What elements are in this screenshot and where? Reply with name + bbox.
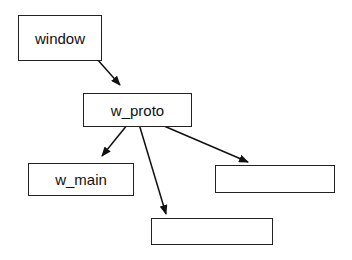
node-window[interactable]: window (18, 15, 102, 61)
node-label: w_main (55, 171, 107, 188)
node-label: w_proto (111, 102, 164, 119)
node-label: window (35, 30, 85, 47)
node-w-main[interactable]: w_main (28, 163, 134, 196)
edge-w_proto-to-bottom (136, 114, 166, 214)
node-w-proto[interactable]: w_proto (83, 93, 192, 127)
node-empty-bottom[interactable] (151, 218, 273, 245)
node-empty-right[interactable] (215, 165, 335, 193)
diagram-canvas: window w_proto w_main (0, 0, 352, 260)
